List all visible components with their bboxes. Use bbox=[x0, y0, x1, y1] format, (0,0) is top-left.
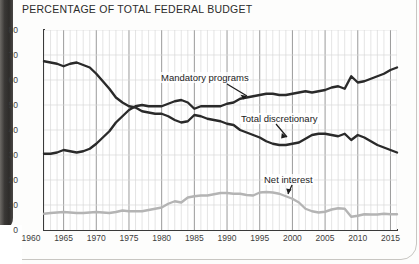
y-tick-label: 60 bbox=[0, 75, 18, 85]
chart-title: PERCENTAGE OF TOTAL FEDERAL BUDGET bbox=[22, 3, 252, 15]
y-tick-label: 20 bbox=[0, 175, 18, 185]
data-lines bbox=[44, 30, 397, 230]
y-tick-label: 70 bbox=[0, 50, 18, 60]
series-label-net-interest: Net interest bbox=[263, 174, 314, 185]
y-tick-label: 10 bbox=[0, 200, 18, 210]
y-tick-label: 40 bbox=[0, 125, 18, 135]
plot-area bbox=[44, 30, 397, 230]
y-tick-label: 50 bbox=[0, 100, 18, 110]
series-label-mandatory: Mandatory programs bbox=[160, 72, 250, 83]
y-tick-label: 80 bbox=[0, 25, 18, 35]
x-tick-label: 2015 bbox=[370, 233, 410, 243]
y-tick-label: 30 bbox=[0, 150, 18, 160]
chart-page: PERCENTAGE OF TOTAL FEDERAL BUDGET 01020… bbox=[0, 0, 419, 264]
series-label-discretionary: Total discretionary bbox=[240, 113, 319, 124]
